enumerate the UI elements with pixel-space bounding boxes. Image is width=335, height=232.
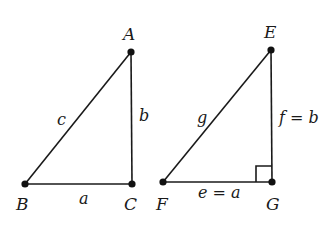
side-c-hypotenuse [25, 52, 131, 184]
vertex-f-point [159, 178, 166, 185]
vertex-b-point [21, 180, 28, 187]
vertex-b-label: B [15, 194, 29, 214]
side-f-label: f = b [278, 108, 319, 127]
vertex-g-point [268, 178, 275, 185]
vertex-f-label: F [155, 194, 169, 214]
vertex-e-label: E [263, 22, 277, 42]
vertex-c-label: C [124, 194, 137, 214]
side-g-hypotenuse [163, 50, 271, 182]
side-c-label: c [57, 110, 66, 129]
right-triangles-diagram: A B C c b a E F G g f = b e = a [0, 0, 335, 232]
vertex-a-point [127, 48, 134, 55]
vertex-a-label: A [121, 24, 135, 44]
vertex-c-point [128, 180, 135, 187]
vertex-e-point [267, 46, 274, 53]
side-b [131, 52, 132, 184]
side-g-label: g [197, 108, 207, 127]
side-e-label: e = a [198, 183, 241, 202]
side-b-label: b [139, 106, 149, 125]
side-f [271, 50, 272, 182]
vertex-g-label: G [266, 194, 280, 214]
triangle-efg: E F G g f = b e = a [155, 22, 319, 214]
side-a-label: a [79, 189, 89, 208]
triangle-abc: A B C c b a [15, 24, 149, 214]
